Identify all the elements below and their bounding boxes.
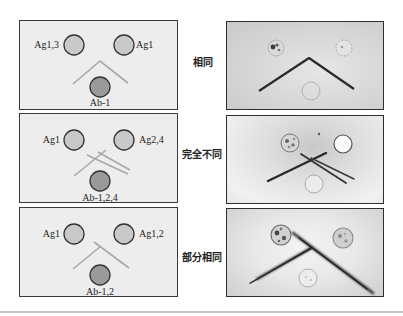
bottom-divider (0, 311, 403, 313)
gel-photo (227, 209, 384, 297)
antigen-right-label: Ag1,2 (139, 228, 164, 240)
antibody-well (90, 171, 110, 191)
antibody-well (90, 77, 110, 97)
gel-photo (227, 116, 384, 204)
antigen-well-left (281, 134, 299, 152)
antigen-well-right (114, 130, 134, 150)
schematic-drawing (20, 114, 179, 204)
photo-panel-non-identity (226, 115, 384, 204)
antigen-well-left (271, 225, 291, 245)
antibody-label: Ab-1,2,4 (60, 192, 140, 204)
schematic-panel-partial-identity: Ag1 Ag1,2 Ab-1,2 (19, 207, 178, 297)
antigen-well-left (64, 35, 84, 55)
antigen-well-left (268, 40, 284, 56)
antibody-label: Ab-1 (60, 97, 140, 109)
schematic-panel-identity: Ag1,3 Ag1 Ab-1 (19, 20, 178, 110)
antigen-well-right (336, 40, 352, 56)
antigen-well-right (334, 135, 352, 153)
antigen-left-label: Ag1 (25, 134, 60, 146)
antigen-well-left (64, 130, 84, 150)
antigen-right-label: Ag2,4 (139, 134, 164, 146)
antibody-label: Ab-1,2 (60, 286, 140, 298)
antibody-well (90, 265, 110, 285)
schematic-drawing (20, 208, 179, 298)
antigen-left-label: Ag1,3 (24, 39, 59, 51)
antigen-well-right (114, 224, 134, 244)
antigen-well-left (64, 224, 84, 244)
photo-panel-identity (226, 21, 384, 110)
photo-panel-partial-identity (226, 208, 384, 297)
antigen-left-label: Ag1 (25, 228, 60, 240)
precipitin-line-2-spur (94, 242, 129, 268)
result-label-identity: 相同 (180, 57, 226, 69)
schematic-panel-non-identity: Ag1 Ag2,4 Ab-1,2,4 (19, 113, 178, 203)
precipitin-band (259, 58, 354, 91)
gel-photo (227, 22, 384, 110)
antigen-well-right (333, 228, 353, 248)
result-label-partial-identity: 部分相同 (179, 252, 225, 264)
result-label-non-identity: 完全不同 (179, 149, 225, 161)
antibody-well (299, 269, 317, 287)
antigen-well-right (114, 35, 134, 55)
antigen-right-label: Ag1 (136, 39, 153, 51)
artifact-dot (318, 133, 320, 135)
antibody-well (302, 82, 320, 100)
antibody-well (305, 175, 323, 193)
